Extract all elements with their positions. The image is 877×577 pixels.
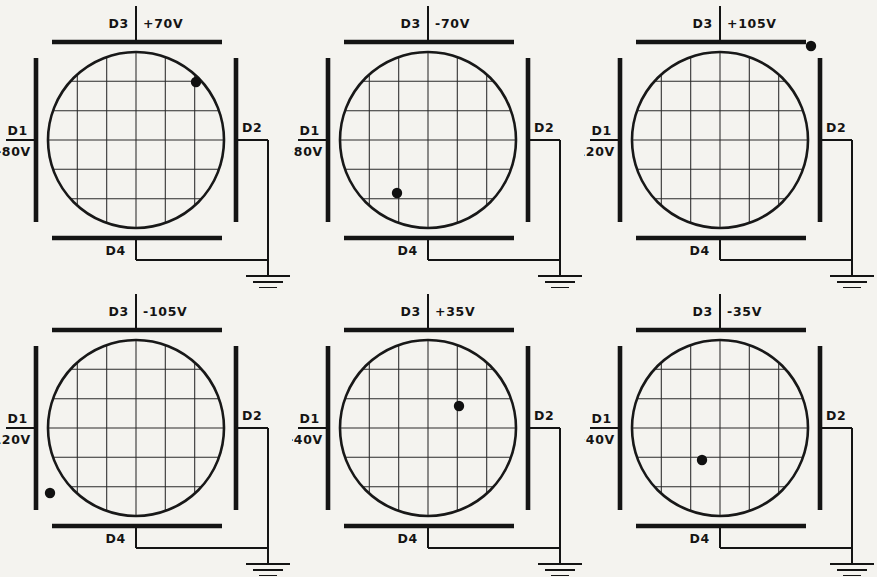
d3-label: D3 xyxy=(401,16,421,31)
d3-voltage: -35V xyxy=(727,304,762,319)
figure-canvas: D3 +70V D1 -80V D2 D4 xyxy=(0,0,877,577)
d1-label: D1 xyxy=(8,411,28,426)
beam-spot xyxy=(392,188,402,198)
d4-label: D4 xyxy=(690,531,710,546)
beam-spot xyxy=(454,401,464,411)
d4-label: D4 xyxy=(106,243,126,258)
d4-label: D4 xyxy=(106,531,126,546)
panel-1: D3 +70V D1 -80V D2 D4 xyxy=(0,0,292,288)
d3-voltage: +105V xyxy=(727,16,777,31)
d3-label: D3 xyxy=(693,16,713,31)
d3-voltage: -70V xyxy=(435,16,470,31)
d1-voltage: -80V xyxy=(0,144,31,159)
d1-label: D1 xyxy=(592,123,612,138)
beam-spot xyxy=(191,77,201,87)
d2-label: D2 xyxy=(242,120,262,135)
beam-spot xyxy=(806,41,816,51)
panel-6: D3 -35V D1 +40V D2 D4 xyxy=(584,288,876,576)
d1-label: D1 xyxy=(300,123,320,138)
d3-label: D3 xyxy=(693,304,713,319)
d1-label: D1 xyxy=(300,411,320,426)
panel-4: D3 -105V D1 +120V D2 D4 xyxy=(0,288,292,576)
beam-spot xyxy=(697,455,707,465)
d1-voltage: -40V xyxy=(292,432,323,447)
d2-label: D2 xyxy=(534,408,554,423)
ground-symbol xyxy=(538,276,582,288)
ground-symbol xyxy=(830,564,874,576)
panel-5: D3 +35V D1 -40V D2 D4 xyxy=(292,288,584,576)
ground-symbol xyxy=(246,276,290,288)
ground-symbol xyxy=(246,564,290,576)
d2-label: D2 xyxy=(826,120,846,135)
ground-symbol xyxy=(538,564,582,576)
d1-label: D1 xyxy=(8,123,28,138)
d2-label: D2 xyxy=(242,408,262,423)
d1-voltage: +120V xyxy=(0,432,31,447)
d2-label: D2 xyxy=(826,408,846,423)
d3-label: D3 xyxy=(109,16,129,31)
ground-symbol xyxy=(830,276,874,288)
d3-label: D3 xyxy=(109,304,129,319)
d4-label: D4 xyxy=(398,531,418,546)
beam-spot xyxy=(45,488,55,498)
d1-voltage: +80V xyxy=(292,144,323,159)
panel-3: D3 +105V D1 -120V D2 D4 xyxy=(584,0,876,288)
d3-voltage: +70V xyxy=(143,16,183,31)
d1-label: D1 xyxy=(592,411,612,426)
d1-voltage: +40V xyxy=(584,432,615,447)
d4-label: D4 xyxy=(398,243,418,258)
d3-label: D3 xyxy=(401,304,421,319)
d3-voltage: +35V xyxy=(435,304,475,319)
panel-2: D3 -70V D1 +80V D2 D4 xyxy=(292,0,584,288)
d2-label: D2 xyxy=(534,120,554,135)
d1-voltage: -120V xyxy=(584,144,615,159)
d4-label: D4 xyxy=(690,243,710,258)
d3-voltage: -105V xyxy=(143,304,187,319)
